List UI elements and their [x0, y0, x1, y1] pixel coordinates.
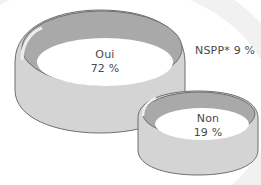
label-oui-value: 72 % — [78, 62, 132, 76]
label-oui: Oui 72 % — [78, 48, 132, 76]
label-non-name: Non — [183, 112, 233, 126]
label-non-value: 19 % — [183, 126, 233, 140]
label-nspp: NSPP* 9 % — [195, 44, 255, 58]
label-oui-name: Oui — [78, 48, 132, 62]
rings-graphic — [0, 0, 261, 185]
chart-stage: Oui 72 % Non 19 % NSPP* 9 % — [0, 0, 261, 185]
label-non: Non 19 % — [183, 112, 233, 140]
